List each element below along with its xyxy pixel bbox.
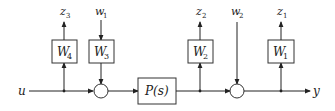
svg-text:3: 3 bbox=[66, 12, 70, 20]
weight-block-w4: W 4 bbox=[52, 40, 77, 63]
output-label-y: y bbox=[312, 84, 320, 98]
svg-text:3: 3 bbox=[104, 52, 109, 61]
output-label-z1: z 1 bbox=[276, 5, 287, 20]
svg-text:1: 1 bbox=[283, 52, 288, 61]
svg-text:2: 2 bbox=[203, 52, 208, 61]
weight-block-w2: W 2 bbox=[188, 40, 213, 63]
svg-text:z: z bbox=[59, 5, 66, 18]
weight-block-w3: W 3 bbox=[89, 40, 114, 63]
svg-text:2: 2 bbox=[239, 12, 243, 20]
svg-text:z: z bbox=[276, 5, 283, 18]
output-label-z3: z 3 bbox=[59, 5, 70, 20]
svg-text:z: z bbox=[195, 5, 202, 18]
block-diagram: u W 4 z 3 w 1 W 3 P(s) W 2 z bbox=[0, 0, 335, 111]
input-label-u: u bbox=[18, 84, 26, 98]
input-label-w2: w 2 bbox=[231, 5, 243, 20]
svg-text:P(s): P(s) bbox=[144, 84, 169, 98]
output-label-z2: z 2 bbox=[195, 5, 206, 20]
svg-text:1: 1 bbox=[103, 12, 107, 20]
plant-block: P(s) bbox=[138, 78, 176, 104]
summing-junction-2 bbox=[230, 84, 244, 98]
weight-block-w1: W 1 bbox=[268, 40, 294, 63]
svg-text:4: 4 bbox=[67, 52, 72, 61]
summing-junction-1 bbox=[94, 84, 108, 98]
svg-text:2: 2 bbox=[202, 12, 206, 20]
input-label-w1: w 1 bbox=[95, 5, 107, 20]
svg-text:1: 1 bbox=[283, 12, 287, 20]
